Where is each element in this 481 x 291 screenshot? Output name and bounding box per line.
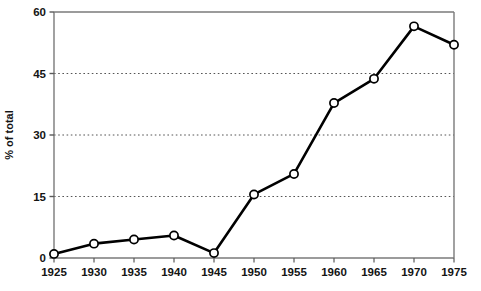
data-point-1965 xyxy=(370,75,378,83)
data-point-1960 xyxy=(330,99,338,107)
x-tick-label-1945: 1945 xyxy=(201,266,227,278)
x-tick-label-1965: 1965 xyxy=(361,266,387,278)
y-tick-label-15: 15 xyxy=(33,191,46,203)
data-point-1970 xyxy=(410,22,418,30)
y-axis-label: % of total xyxy=(3,110,15,160)
data-point-1935 xyxy=(130,235,138,243)
y-tick-label-0: 0 xyxy=(40,252,46,264)
x-tick-label-1925: 1925 xyxy=(41,266,67,278)
x-tick-label-1950: 1950 xyxy=(241,266,267,278)
x-tick-label-1935: 1935 xyxy=(121,266,147,278)
data-point-1925 xyxy=(50,250,58,258)
y-axis-ticks: 015304560 xyxy=(33,6,54,264)
chart-canvas: 015304560 192519301935194019451950195519… xyxy=(0,0,481,291)
x-tick-label-1940: 1940 xyxy=(161,266,187,278)
data-point-1930 xyxy=(90,240,98,248)
data-point-1950 xyxy=(250,190,258,198)
y-tick-label-60: 60 xyxy=(33,6,46,18)
x-tick-label-1955: 1955 xyxy=(281,266,307,278)
x-tick-label-1930: 1930 xyxy=(81,266,107,278)
data-point-1975 xyxy=(450,41,458,49)
data-point-1955 xyxy=(290,170,298,178)
x-tick-label-1970: 1970 xyxy=(401,266,427,278)
x-tick-label-1975: 1975 xyxy=(441,266,467,278)
x-tick-label-1960: 1960 xyxy=(321,266,347,278)
data-point-1945 xyxy=(210,249,218,257)
y-tick-label-30: 30 xyxy=(33,129,46,141)
y-tick-label-45: 45 xyxy=(33,68,46,80)
line-chart: 015304560 192519301935194019451950195519… xyxy=(0,0,481,291)
data-point-1940 xyxy=(170,231,178,239)
x-axis-ticks: 1925193019351940194519501955196019651970… xyxy=(41,258,467,278)
